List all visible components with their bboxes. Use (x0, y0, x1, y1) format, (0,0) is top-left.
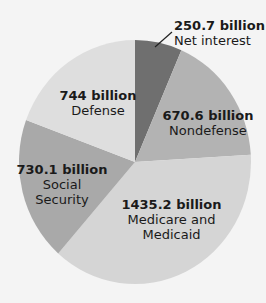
medicare-name-2: Medicaid (114, 227, 229, 242)
nondefense-name: Nondefense (158, 123, 258, 138)
net-interest-name: Net interest (174, 33, 265, 48)
social-security-name: Social (12, 177, 112, 192)
nondefense-value: 670.6 billion (158, 108, 258, 123)
medicare-value: 1435.2 billion (114, 197, 229, 212)
label-social-security: 730.1 billion Social Security (12, 162, 112, 207)
label-defense: 744 billion Defense (48, 88, 148, 118)
label-nondefense: 670.6 billion Nondefense (158, 108, 258, 138)
social-security-name-2: Security (12, 192, 112, 207)
social-security-value: 730.1 billion (12, 162, 112, 177)
defense-name: Defense (48, 103, 148, 118)
label-net-interest: 250.7 billion Net interest (174, 18, 265, 48)
net-interest-value: 250.7 billion (174, 18, 265, 33)
label-medicare: 1435.2 billion Medicare and Medicaid (114, 197, 229, 242)
medicare-name: Medicare and (114, 212, 229, 227)
defense-value: 744 billion (48, 88, 148, 103)
